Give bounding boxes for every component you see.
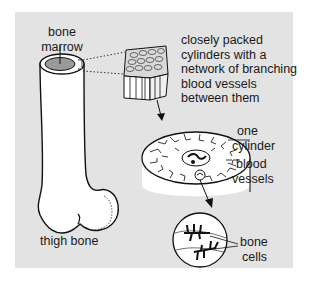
description-line-3: network of branching [181, 62, 297, 77]
bone-cells-inset [173, 213, 227, 267]
bone-marrow-line-2: marrow [38, 40, 86, 55]
one-cylinder-label: one cylinder [232, 124, 275, 153]
bone-marrow-label: bone marrow [38, 25, 86, 54]
description-line-2: cylinders with a [181, 48, 297, 63]
blood-vessels-line-1: blood [232, 157, 274, 172]
thigh-bone-label: thigh bone [40, 234, 98, 249]
blood-vessels-line-2: vessels [232, 172, 274, 187]
one-cylinder-line-1: one [232, 124, 275, 139]
cylinders-description-label: closely packed cylinders with a network … [181, 33, 297, 106]
bone-cells-line-2: cells [240, 250, 268, 265]
thigh-bone-drawing [38, 46, 118, 233]
bone-marrow-line-1: bone [38, 25, 86, 40]
bone-cells-label: bone cells [240, 235, 268, 264]
cylinder-block-drawing [124, 46, 168, 100]
description-line-5: between them [181, 91, 297, 106]
description-line-1: closely packed [181, 33, 297, 48]
description-line-4: blood vessels [181, 77, 297, 92]
bone-cells-line-1: bone [240, 235, 268, 250]
one-cylinder-line-2: cylinder [232, 139, 275, 154]
blood-vessels-label: blood vessels [232, 157, 274, 186]
